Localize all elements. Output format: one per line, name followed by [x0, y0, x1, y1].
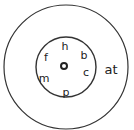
onset-letter-h: h — [62, 40, 69, 53]
onset-letter-c: c — [83, 66, 89, 79]
onset-letter-b: b — [81, 49, 88, 62]
onset-letter-p: p — [63, 86, 70, 99]
word-ending-at: at — [104, 62, 117, 77]
word-wheel-diagram: h b c p m f at — [0, 0, 134, 130]
onset-letter-f: f — [44, 51, 49, 64]
center-pivot-dot — [61, 63, 67, 69]
onset-letter-m: m — [39, 72, 50, 85]
